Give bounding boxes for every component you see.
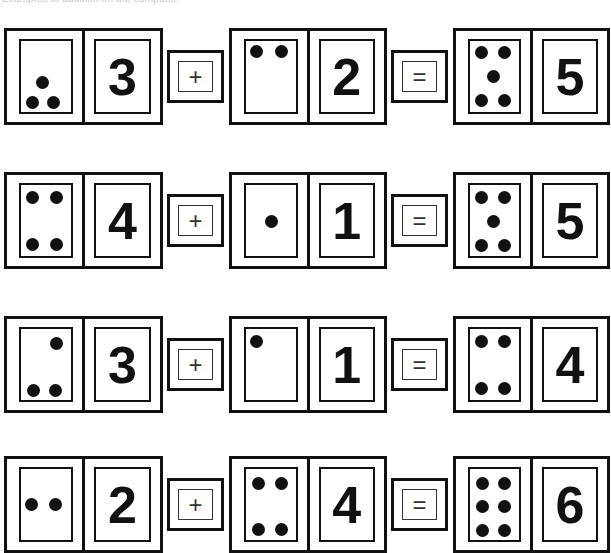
dot-icon bbox=[475, 46, 488, 59]
addend-a-domino: 3 bbox=[4, 28, 163, 125]
plus-operator-box: + bbox=[167, 194, 224, 247]
dot-icon bbox=[475, 94, 488, 107]
numeral: 2 bbox=[321, 51, 374, 103]
dot-icon bbox=[49, 498, 62, 511]
dot-icon bbox=[252, 523, 265, 536]
dot-card bbox=[468, 183, 521, 258]
numeral-half: 4 bbox=[310, 459, 385, 550]
result-domino: 5 bbox=[453, 172, 610, 269]
numeral-card: 1 bbox=[319, 183, 376, 258]
dot-half bbox=[7, 31, 85, 122]
numeral-half: 6 bbox=[533, 459, 607, 550]
numeral-card: 6 bbox=[542, 467, 598, 542]
dot-icon bbox=[475, 382, 488, 395]
numeral-card: 1 bbox=[319, 327, 376, 402]
plus-icon: + bbox=[178, 489, 213, 520]
addend-b-domino: 2 bbox=[229, 28, 387, 125]
dot-icon bbox=[475, 239, 488, 252]
numeral: 1 bbox=[321, 195, 374, 247]
numeral-half: 2 bbox=[85, 459, 160, 550]
equation-row-2: 4 + 1 = bbox=[0, 172, 611, 269]
dot-icon bbox=[275, 45, 288, 58]
dot-icon bbox=[498, 191, 511, 204]
numeral-card: 4 bbox=[94, 183, 151, 258]
dot-icon bbox=[498, 524, 511, 537]
dot-icon bbox=[475, 335, 488, 348]
equals-operator-box: = bbox=[391, 478, 448, 531]
dot-icon bbox=[27, 384, 40, 397]
numeral-half: 1 bbox=[310, 319, 385, 410]
addend-b-domino: 4 bbox=[229, 456, 387, 553]
dot-half bbox=[232, 459, 310, 550]
numeral-half: 1 bbox=[310, 175, 385, 266]
dot-card bbox=[468, 39, 521, 114]
dot-icon bbox=[275, 477, 288, 490]
numeral: 1 bbox=[321, 339, 374, 391]
dot-icon bbox=[25, 498, 38, 511]
dot-half bbox=[7, 319, 85, 410]
numeral: 5 bbox=[544, 51, 596, 103]
dot-icon bbox=[498, 335, 511, 348]
dot-icon bbox=[26, 238, 39, 251]
dot-card bbox=[19, 467, 73, 542]
numeral: 3 bbox=[96, 51, 149, 103]
dot-half bbox=[456, 459, 533, 550]
equals-operator-box: = bbox=[391, 50, 448, 103]
dot-half bbox=[7, 175, 85, 266]
numeral-card: 5 bbox=[542, 183, 598, 258]
addend-a-domino: 3 bbox=[4, 316, 163, 413]
equals-icon: = bbox=[402, 349, 437, 380]
addend-a-domino: 2 bbox=[4, 456, 163, 553]
result-domino: 4 bbox=[453, 316, 610, 413]
dot-half bbox=[7, 459, 85, 550]
numeral-card: 2 bbox=[319, 39, 376, 114]
numeral-half: 2 bbox=[310, 31, 385, 122]
dot-card bbox=[244, 467, 298, 542]
dot-icon bbox=[252, 477, 265, 490]
numeral-half: 4 bbox=[85, 175, 160, 266]
dot-half bbox=[456, 319, 533, 410]
dot-icon bbox=[487, 215, 500, 228]
dot-icon bbox=[47, 96, 60, 109]
dot-icon bbox=[275, 523, 288, 536]
numeral-half: 4 bbox=[533, 319, 607, 410]
numeral-card: 2 bbox=[94, 467, 151, 542]
dot-icon bbox=[498, 500, 511, 513]
numeral: 4 bbox=[321, 479, 374, 531]
plus-icon: + bbox=[178, 61, 213, 92]
plus-operator-box: + bbox=[167, 50, 224, 103]
equation-row-1: 3 + 2 = bbox=[0, 28, 611, 125]
dot-half bbox=[456, 175, 533, 266]
result-domino: 5 bbox=[453, 28, 610, 125]
dot-card bbox=[468, 467, 521, 542]
dot-icon bbox=[50, 337, 63, 350]
plus-operator-box: + bbox=[167, 478, 224, 531]
dot-card bbox=[468, 327, 521, 402]
dot-icon bbox=[26, 96, 39, 109]
numeral-half: 3 bbox=[85, 31, 160, 122]
numeral-card: 3 bbox=[94, 327, 151, 402]
dot-card bbox=[19, 39, 73, 114]
numeral-card: 3 bbox=[94, 39, 151, 114]
dot-icon bbox=[498, 46, 511, 59]
plus-icon: + bbox=[178, 349, 213, 380]
numeral: 4 bbox=[96, 195, 149, 247]
dot-icon bbox=[36, 76, 49, 89]
equals-icon: = bbox=[402, 61, 437, 92]
dot-half bbox=[456, 31, 533, 122]
numeral: 4 bbox=[544, 339, 596, 391]
plus-icon: + bbox=[178, 205, 213, 236]
dot-icon bbox=[487, 70, 500, 83]
dot-half bbox=[232, 31, 310, 122]
dot-half bbox=[232, 175, 310, 266]
dot-icon bbox=[50, 238, 63, 251]
dot-icon bbox=[476, 477, 489, 490]
dot-icon bbox=[250, 335, 263, 348]
dot-icon bbox=[250, 45, 263, 58]
numeral-card: 4 bbox=[319, 467, 376, 542]
dot-icon bbox=[498, 382, 511, 395]
dot-icon bbox=[26, 191, 39, 204]
dot-card bbox=[244, 327, 298, 402]
numeral: 5 bbox=[544, 195, 596, 247]
numeral: 6 bbox=[544, 479, 596, 531]
